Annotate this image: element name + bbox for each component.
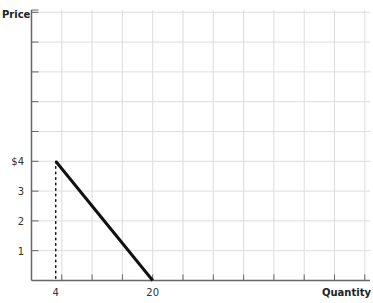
x-tick-label: 4 bbox=[53, 287, 59, 298]
y-tick-label: 3 bbox=[18, 186, 24, 197]
price-quantity-chart: Price Quantity 420123$4 bbox=[0, 0, 373, 303]
axes bbox=[32, 10, 371, 281]
x-tick-label: 20 bbox=[146, 287, 159, 298]
y-tick-label: 1 bbox=[18, 246, 24, 257]
y-tick-label: 2 bbox=[18, 216, 24, 227]
y-axis-title: Price bbox=[2, 9, 31, 20]
y-tick-label: $4 bbox=[11, 156, 24, 167]
x-axis-title: Quantity bbox=[322, 287, 371, 298]
axis-labels: Price Quantity 420123$4 bbox=[2, 9, 371, 298]
gridlines bbox=[32, 10, 371, 281]
